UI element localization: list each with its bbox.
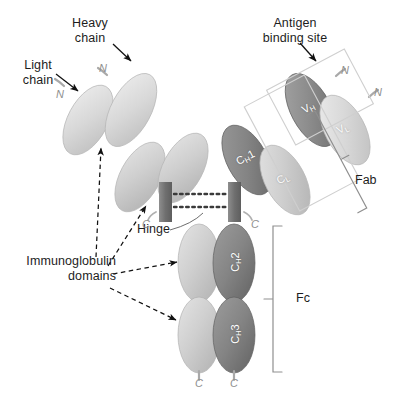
n-terminus-label: N <box>374 86 382 98</box>
fc-region-label: Fc <box>296 291 310 305</box>
fc-bracket <box>264 226 282 372</box>
heavy-chain-arrow <box>113 44 131 61</box>
c-terminus-label: C <box>142 218 150 230</box>
fc-ch3-domains <box>178 297 255 373</box>
c-terminus-label: C <box>230 377 238 389</box>
fc-ch2-domains <box>178 224 255 302</box>
c-terminus-label: C <box>195 377 203 389</box>
fab-region-label: Fab <box>355 173 377 187</box>
left-light-chain <box>53 77 176 220</box>
n-terminus-label: N <box>99 62 107 74</box>
c-terminus-label: C <box>251 218 259 230</box>
n-terminus-label: N <box>341 64 349 76</box>
immunoglobulin-domains-label: Immunoglobulin domains <box>0 254 116 284</box>
domain-label-ch3: CH3 <box>229 324 243 344</box>
n-terminus-label: N <box>56 88 64 100</box>
domain-label-ch2: CH2 <box>229 252 243 272</box>
antigen-binding-site-label: Antigen binding site <box>231 16 359 46</box>
heavy-chain-label: Heavy chain <box>42 16 138 46</box>
antibody-diagram: Heavy chain Light chain Antigen binding … <box>0 0 398 395</box>
light-chain-label: Light chain <box>0 58 76 88</box>
